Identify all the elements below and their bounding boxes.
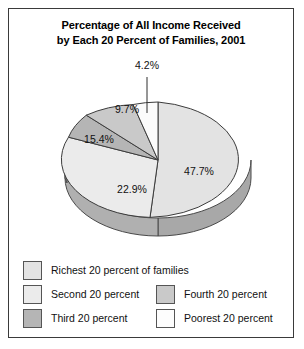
pie-value-label-richest: 47.7% bbox=[184, 165, 214, 177]
pie-chart-svg: 47.7% 22.9% 15.4% 9.7% 4.2% bbox=[9, 55, 295, 255]
legend-item-fourth[interactable]: Fourth 20 percent bbox=[156, 283, 267, 305]
chart-title-line-1: Percentage of All Income Received bbox=[9, 18, 293, 33]
pie-value-label-third: 15.4% bbox=[84, 133, 114, 145]
legend-item-third[interactable]: Third 20 percent bbox=[23, 307, 127, 329]
legend-item-poorest[interactable]: Poorest 20 percent bbox=[156, 307, 273, 329]
legend-swatch-richest bbox=[23, 261, 42, 280]
legend-label-poorest: Poorest 20 percent bbox=[184, 312, 273, 324]
legend-swatch-poorest bbox=[156, 309, 175, 328]
legend-item-second[interactable]: Second 20 percent bbox=[23, 283, 139, 305]
legend-swatch-third bbox=[23, 309, 42, 328]
chart-title: Percentage of All Income Received by Eac… bbox=[9, 18, 293, 48]
pie-top-face bbox=[61, 102, 238, 217]
chart-legend: Richest 20 percent of families Second 20… bbox=[9, 257, 295, 335]
chart-container: Percentage of All Income Received by Eac… bbox=[8, 8, 294, 338]
pie-value-label-poorest: 4.2% bbox=[135, 59, 159, 71]
pie-chart-area: 47.7% 22.9% 15.4% 9.7% 4.2% bbox=[9, 55, 295, 255]
pie-value-label-second: 22.9% bbox=[117, 183, 147, 195]
legend-item-richest[interactable]: Richest 20 percent of families bbox=[23, 259, 189, 281]
legend-swatch-second bbox=[23, 285, 42, 304]
chart-title-line-2: by Each 20 Percent of Families, 2001 bbox=[9, 33, 293, 48]
legend-label-fourth: Fourth 20 percent bbox=[184, 288, 267, 300]
legend-label-second: Second 20 percent bbox=[51, 288, 139, 300]
legend-label-richest: Richest 20 percent of families bbox=[51, 264, 189, 276]
legend-label-third: Third 20 percent bbox=[51, 312, 127, 324]
legend-swatch-fourth bbox=[156, 285, 175, 304]
pie-value-label-fourth: 9.7% bbox=[115, 103, 139, 115]
